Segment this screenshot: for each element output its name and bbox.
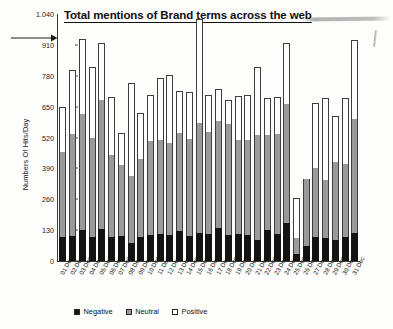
x-label-cell: 25 Dec (292, 263, 302, 303)
bar-segment-neutral (108, 155, 115, 237)
bar-segment-positive (264, 98, 271, 135)
bar-column (97, 14, 107, 261)
stacked-bar (176, 91, 183, 261)
negative-swatch (74, 309, 80, 315)
bar-segment-positive (79, 39, 86, 114)
legend-item[interactable]: Positive (172, 307, 207, 316)
legend-label: Negative (84, 307, 113, 316)
bar-segment-neutral (205, 132, 212, 234)
stacked-bar (264, 98, 271, 261)
bar-segment-neutral (215, 121, 222, 228)
legend-label: Positive (182, 307, 208, 316)
bar-segment-positive (59, 107, 66, 152)
x-label-cell: 09 Dec (136, 263, 146, 303)
bar-segment-positive (283, 43, 290, 105)
chart-legend: NegativeNeutralPositive (74, 307, 207, 316)
x-label-cell: 20 Dec (243, 263, 253, 303)
bar-segment-neutral (283, 104, 290, 223)
bar-column (272, 14, 282, 261)
bar-segment-neutral (128, 176, 135, 244)
x-label-cell: 26 Dec (301, 263, 311, 303)
bar-segment-neutral (303, 179, 310, 246)
x-label-cell: 11 Dec (155, 263, 165, 303)
legend-item[interactable]: Negative (74, 307, 113, 316)
bar-column (185, 14, 195, 261)
bar-segment-neutral (186, 139, 193, 236)
chart-figure: Total mentions of Brand terms across the… (0, 0, 393, 329)
x-label-cell: 12 Dec (165, 263, 175, 303)
bar-segment-positive (215, 89, 222, 121)
x-label-cell: 15 Dec (194, 263, 204, 303)
stacked-bar (196, 19, 203, 261)
bar-column (262, 14, 272, 261)
y-tick-label: 650 (20, 102, 54, 111)
x-label-cell: 24 Dec (282, 263, 292, 303)
bar-column (116, 14, 126, 261)
stacked-bar (69, 70, 76, 261)
bar-segment-neutral (157, 140, 164, 234)
bar-series-container (58, 14, 360, 261)
x-label-cell: 27 Dec (311, 263, 321, 303)
x-label-cell: 17 Dec (214, 263, 224, 303)
legend-item[interactable]: Neutral (126, 307, 159, 316)
bar-segment-neutral (79, 114, 86, 230)
x-label-cell: 28 Dec (321, 263, 331, 303)
bar-column (223, 14, 233, 261)
x-label-cell: 04 Dec (87, 263, 97, 303)
stacked-bar (137, 113, 144, 261)
x-label-cell: 08 Dec (126, 263, 136, 303)
stacked-bar (342, 98, 349, 261)
plot-area (57, 14, 360, 262)
bar-segment-positive (244, 95, 251, 140)
bar-column (146, 14, 156, 261)
bar-segment-neutral (137, 159, 144, 237)
y-tick-label: 910 (20, 40, 54, 49)
bar-segment-neutral (264, 135, 271, 230)
bar-segment-neutral (98, 100, 105, 229)
stacked-bar (79, 39, 86, 261)
bar-segment-neutral (225, 124, 232, 234)
bar-segment-neutral (69, 134, 76, 236)
bar-column (58, 14, 68, 261)
x-axis-labels: 01 Dec02 Dec03 Dec04 Dec05 Dec06 Dec07 D… (58, 263, 360, 303)
bar-segment-positive (157, 78, 164, 140)
bar-column (87, 14, 97, 261)
bar-column (233, 14, 243, 261)
bar-segment-positive (118, 133, 125, 165)
y-tick-label: 130 (20, 226, 54, 235)
bar-segment-negative (215, 228, 222, 261)
bar-column (194, 14, 204, 261)
stacked-bar (98, 43, 105, 262)
bar-segment-negative (283, 223, 290, 261)
bar-column (243, 14, 253, 261)
bar-column (175, 14, 185, 261)
bar-column (214, 14, 224, 261)
bar-column (282, 14, 292, 261)
stacked-bar (157, 78, 164, 261)
y-tick-label: 0 (20, 257, 54, 266)
y-tick-label: 780 (20, 71, 54, 80)
bar-segment-positive (342, 98, 349, 163)
stacked-bar (118, 133, 125, 261)
bar-segment-positive (98, 43, 105, 100)
bar-segment-neutral (176, 133, 183, 232)
bar-column (165, 14, 175, 261)
bar-segment-positive (254, 67, 261, 135)
stacked-bar (274, 97, 281, 261)
stacked-bar (254, 67, 261, 261)
x-label-cell: 22 Dec (262, 263, 272, 303)
bar-column (204, 14, 214, 261)
bar-segment-positive (274, 97, 281, 134)
stacked-bar (225, 100, 232, 262)
bar-segment-positive (176, 91, 183, 133)
bar-segment-positive (351, 40, 358, 118)
bar-segment-neutral (254, 135, 261, 240)
bar-segment-neutral (196, 123, 203, 232)
bar-segment-neutral (244, 140, 251, 235)
stacked-bar (89, 67, 96, 261)
stacked-bar (332, 116, 339, 261)
bar-segment-neutral (322, 180, 329, 238)
x-label-cell: 07 Dec (116, 263, 126, 303)
stacked-bar (215, 89, 222, 261)
y-tick-label: 260 (20, 195, 54, 204)
